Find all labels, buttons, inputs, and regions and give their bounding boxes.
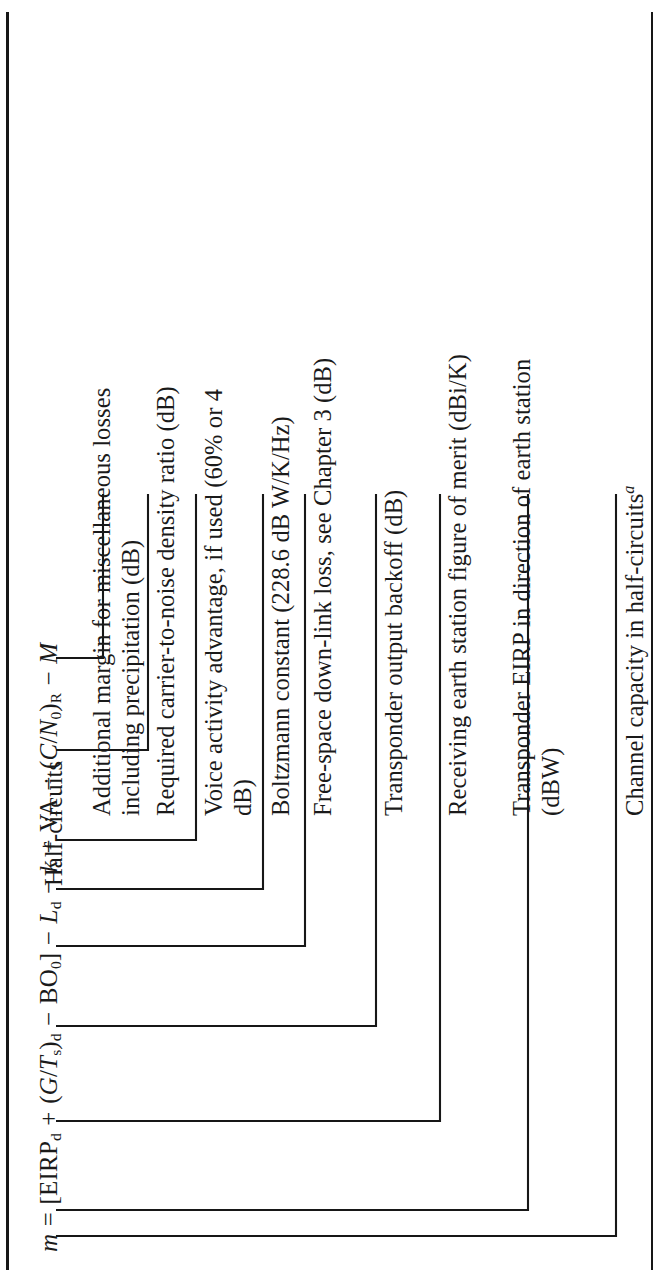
scanned-figure-page: m=[EIRPd+(G/Ts)d−BO0]−Ld−k+VA−(C/N0)R−M: [0, 0, 664, 1284]
label-required-cn0: Required carrier-to-noise density ratio …: [152, 386, 181, 816]
label-voice-activity-advantage: Voice activity advantage, if used (60% o…: [200, 389, 257, 816]
column-header-half-circuits: Half-circuits: [40, 761, 69, 886]
footnote-marker: a: [620, 485, 637, 493]
figure-viewport: m=[EIRPd+(G/Ts)d−BO0]−Ld−k+VA−(C/N0)R−M: [0, 0, 664, 1284]
label-additional-margin: Additional margin for miscellaneous loss…: [88, 388, 145, 816]
label-channel-capacity-text: Channel capacity in half-circuits: [621, 494, 648, 816]
page-rule-top: [6, 12, 9, 1270]
page-rule-bottom: [651, 12, 653, 1270]
label-free-space-loss: Free-space down-link loss, see Chapter 3…: [309, 358, 338, 816]
label-transponder-eirp: Transponder EIRP in direction of earth s…: [508, 359, 565, 816]
label-boltzmann-constant: Boltzmann constant (228.6 dB W/K/Hz): [267, 416, 296, 816]
label-channel-capacity: Channel capacity in half-circuitsa: [620, 485, 650, 816]
label-earth-station-figure-of-merit: Receiving earth station figure of merit …: [444, 354, 473, 816]
equation: m=[EIRPd+(G/Ts)d−BO0]−Ld−k+VA−(C/N0)R−M: [36, 643, 64, 1252]
label-transponder-output-backoff: Transponder output backoff (dB): [380, 490, 409, 816]
